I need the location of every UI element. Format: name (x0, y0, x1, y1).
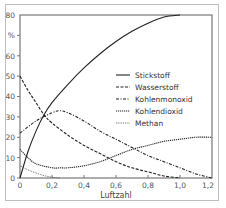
legend-label-wasserstoff: Wasserstoff (135, 83, 179, 92)
y-tick-label: 0 (10, 174, 15, 183)
legend-label-stickstoff: Stickstoff (135, 71, 171, 80)
legend-label-kohlenmonoxid: Kohlenmonoxid (135, 95, 193, 104)
x-tick-label: 1,2 (202, 181, 214, 190)
legend-label-methan: Methan (135, 119, 163, 128)
x-tick-label: 0,2 (46, 181, 58, 190)
x-tick-label: 0,6 (110, 181, 122, 190)
x-axis-title: Luftzahl (100, 191, 132, 200)
legend-label-kohlendioxid: Kohlendioxid (135, 107, 183, 116)
x-axis: 0 0,2 0,4 0,6 0,8 1,0 1,2 Luftzahl (18, 175, 215, 200)
y-tick-label: 80 (5, 11, 15, 20)
legend: Stickstoff Wasserstoff Kohlenmonoxid Koh… (116, 71, 193, 128)
x-tick-label: 1,0 (174, 181, 186, 190)
y-tick-label: 60 (5, 52, 15, 61)
series-line-methan (20, 166, 60, 178)
line-chart: 0 10 20 30 40 50 60 % 80 0 0,2 0,4 0,6 0… (0, 0, 226, 208)
y-tick-label: 20 (5, 133, 15, 142)
series-line-kohlenmonoxid (20, 111, 212, 178)
y-tick-label: 50 (5, 72, 15, 81)
x-tick-label: 0 (18, 181, 23, 190)
series-line-kohlendioxid (20, 137, 212, 168)
y-tick-label: 40 (5, 92, 15, 101)
x-tick-label: 0,8 (142, 181, 154, 190)
y-tick-label: 10 (5, 154, 15, 163)
y-tick-label: 30 (5, 113, 15, 122)
y-unit-label: % (8, 31, 15, 40)
y-axis: 0 10 20 30 40 50 60 % 80 (5, 11, 20, 183)
x-tick-label: 0,4 (78, 181, 90, 190)
